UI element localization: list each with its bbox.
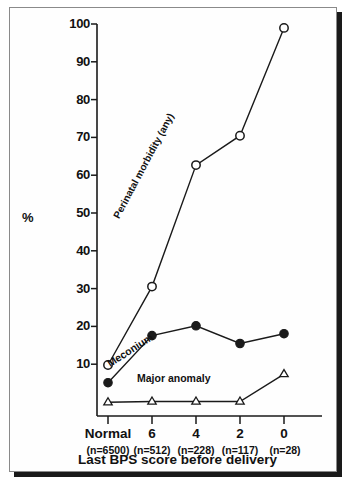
series-label-major-anomaly: Major anomaly — [137, 372, 211, 384]
y-tick-label-60: 60 — [50, 167, 90, 182]
figure-frame — [9, 7, 337, 472]
y-axis-label: % — [22, 210, 34, 225]
y-tick-label-80: 80 — [50, 92, 90, 107]
y-tick-label-50: 50 — [50, 205, 90, 220]
y-tick-label-90: 90 — [50, 54, 90, 69]
frame-shadow-bottom — [14, 472, 342, 477]
x-axis-title: Last BPS score before delivery — [0, 452, 355, 467]
y-tick-label-40: 40 — [50, 243, 90, 258]
frame-shadow-right — [337, 12, 342, 477]
y-tick-label-10: 10 — [50, 356, 90, 371]
y-tick-label-30: 30 — [50, 281, 90, 296]
y-tick-label-100: 100 — [50, 16, 90, 31]
figure-container: % 100 90 80 70 60 50 40 30 20 10 Normal … — [0, 0, 355, 493]
x-tick-label-0: 0 — [254, 426, 314, 441]
y-tick-label-20: 20 — [50, 318, 90, 333]
y-tick-label-70: 70 — [50, 129, 90, 144]
